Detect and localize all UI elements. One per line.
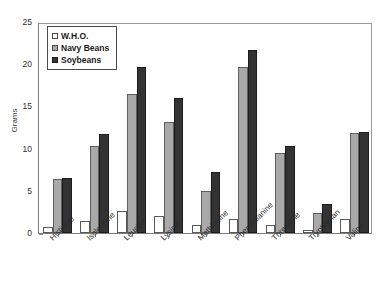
legend-item: W.H.O. [52,30,109,42]
bar [248,50,258,233]
legend-swatch-icon [52,33,58,39]
bar [164,122,174,233]
bar [238,67,248,233]
x-axis-labels: HistidineIsoleucineLeucineLysineMethioni… [38,236,372,289]
bar [174,98,184,233]
legend-swatch-icon [52,57,58,63]
legend: W.H.O.Navy BeansSoybeans [47,26,117,70]
y-tick-label: 25 [10,18,32,27]
bar-group [299,24,336,233]
bar-group [225,24,262,233]
bar-group [336,24,373,233]
bar [350,133,360,233]
legend-label: W.H.O. [61,32,88,41]
bar-group [187,24,224,233]
bar [90,146,100,233]
bar-chart: Grams 0510152025 HistidineIsoleucineLeuc… [0,0,382,289]
y-tick-label: 5 [10,187,32,196]
bar [359,132,369,233]
legend-label: Navy Beans [61,44,109,53]
legend-item: Soybeans [52,54,109,66]
y-axis-ticks: 0510152025 [6,0,32,289]
bar [127,94,137,233]
y-tick-label: 10 [10,145,32,154]
bar-group [150,24,187,233]
y-tick-label: 15 [10,102,32,111]
legend-item: Navy Beans [52,42,109,54]
bar-group [113,24,150,233]
y-tick-mark [39,234,43,235]
bar [117,211,127,233]
legend-label: Soybeans [61,56,101,65]
y-tick-label: 0 [10,229,32,238]
legend-swatch-icon [52,45,58,51]
y-tick-label: 20 [10,60,32,69]
bar [137,67,147,233]
